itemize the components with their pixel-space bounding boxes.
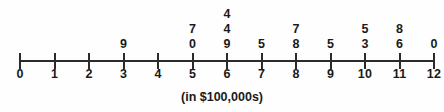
leaf-digit: 8 (380, 23, 420, 36)
leaf-digit: 4 (207, 8, 247, 21)
leaf-digit: 4 (207, 23, 247, 36)
leaf-digit: 7 (276, 23, 316, 36)
axis-tick-label: 12 (414, 67, 444, 81)
number-line-leaf-plot: 0 1 2 9 3 4 0 7 5 9 (0, 0, 444, 112)
leaf-digit: 0 (414, 38, 444, 51)
axis-caption: (in $100,000s) (0, 90, 444, 104)
leaf-digit: 9 (104, 38, 144, 51)
